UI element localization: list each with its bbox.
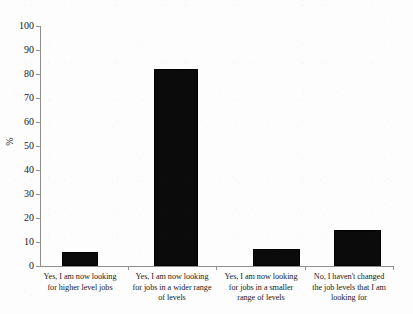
- x-axis-label-2-line-2: range of levels: [213, 293, 309, 304]
- y-tick-label-50: 50: [24, 141, 34, 151]
- x-axis-label-2: Yes, I am now looking for jobs in a smal…: [213, 272, 309, 304]
- y-tick-90: [36, 50, 41, 51]
- x-axis-label-1-line-2: of levels: [124, 293, 220, 304]
- x-tick-2: [216, 266, 217, 270]
- y-tick-label-60: 60: [24, 117, 34, 127]
- y-tick-label-0: 0: [29, 261, 34, 271]
- y-tick-10: [36, 242, 41, 243]
- y-tick-label-80: 80: [24, 69, 34, 79]
- x-tick-1: [128, 266, 129, 270]
- y-tick-20: [36, 218, 41, 219]
- x-axis-label-0-line-1: for higher level jobs: [32, 283, 128, 294]
- x-axis-label-1-line-0: Yes, I am now looking: [124, 272, 220, 283]
- y-tick-0: [36, 266, 41, 267]
- y-tick-label-40: 40: [24, 165, 34, 175]
- y-tick-60: [36, 122, 41, 123]
- x-axis-label-3-line-1: the job levels that I am: [301, 283, 397, 294]
- x-axis-label-2-line-0: Yes, I am now looking: [213, 272, 309, 283]
- x-tick-3: [305, 266, 306, 270]
- y-tick-label-90: 90: [24, 45, 34, 55]
- y-tick-label-70: 70: [24, 93, 34, 103]
- y-tick-100: [36, 26, 41, 27]
- x-axis-label-1-line-1: for jobs in a wider range: [124, 283, 220, 294]
- chart-page: % 0 10 20 30 40 50 60 70 80 90 100: [0, 0, 413, 314]
- y-tick-30: [36, 194, 41, 195]
- y-tick-label-20: 20: [24, 213, 34, 223]
- y-axis-title: %: [4, 127, 15, 157]
- bar-0: [62, 252, 98, 266]
- y-tick-40: [36, 170, 41, 171]
- bar-chart: % 0 10 20 30 40 50 60 70 80 90 100: [0, 0, 413, 314]
- y-tick-label-100: 100: [19, 21, 34, 31]
- x-axis-label-3-line-0: No, I haven't changed: [301, 272, 397, 283]
- y-tick-label-30: 30: [24, 189, 34, 199]
- x-tick-4: [393, 266, 394, 270]
- bar-2: [253, 249, 300, 266]
- x-axis-label-0: Yes, I am now looking for higher level j…: [32, 272, 128, 293]
- bar-3: [334, 230, 381, 266]
- bar-1: [154, 69, 198, 266]
- x-axis-label-2-line-1: for jobs in a smaller: [213, 283, 309, 294]
- x-axis-label-1: Yes, I am now looking for jobs in a wide…: [124, 272, 220, 304]
- x-axis-label-3-line-2: looking for: [301, 293, 397, 304]
- y-tick-label-10: 10: [24, 237, 34, 247]
- y-tick-50: [36, 146, 41, 147]
- y-tick-70: [36, 98, 41, 99]
- y-tick-80: [36, 74, 41, 75]
- x-axis-label-0-line-0: Yes, I am now looking: [32, 272, 128, 283]
- x-axis-label-3: No, I haven't changed the job levels tha…: [301, 272, 397, 304]
